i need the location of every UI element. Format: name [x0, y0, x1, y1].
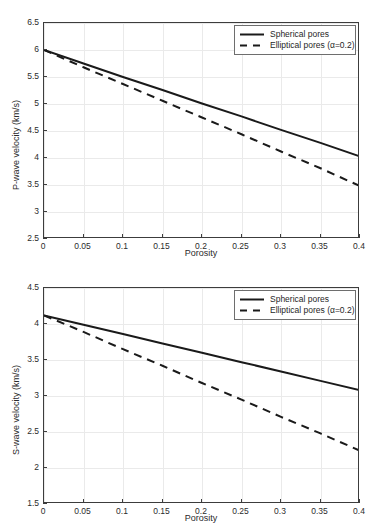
x-tick-mark: [162, 499, 163, 503]
legend-swatch-solid-line: [239, 29, 265, 40]
x-tick-mark: [162, 234, 163, 238]
legend-swatch-dashed-line: [239, 305, 265, 316]
legend-item-elliptical-pores: Elliptical pores (α=0.2): [239, 305, 350, 316]
x-tick-label: 0.15: [153, 242, 170, 251]
legend-item-elliptical-pores: Elliptical pores (α=0.2): [239, 40, 350, 51]
legend-label-spherical-pores: Spherical pores: [270, 29, 329, 40]
y-tick-mark: [43, 467, 47, 468]
x-tick-label: 0: [41, 242, 46, 251]
y-tick-mark: [43, 211, 47, 212]
figure-dual-velocity-plot: 00.050.10.150.20.250.30.350.42.533.544.5…: [0, 0, 381, 529]
x-tick-mark: [122, 499, 123, 503]
series-layer-s-wave: [44, 288, 359, 503]
x-tick-mark: [241, 234, 242, 238]
y-tick-label: 4.5: [18, 126, 39, 135]
chart-panel-s-wave: 00.050.10.150.20.250.30.350.41.522.533.5…: [0, 265, 381, 529]
x-tick-mark: [83, 234, 84, 238]
x-tick-mark: [201, 234, 202, 238]
y-tick-mark: [43, 431, 47, 432]
legend-swatch-solid-line: [239, 294, 265, 305]
y-tick-label: 5: [18, 99, 39, 108]
y-tick-mark: [43, 49, 47, 50]
y-tick-label: 3.5: [18, 355, 39, 364]
x-tick-label: 0.4: [353, 507, 365, 516]
y-tick-label: 5.5: [18, 72, 39, 81]
y-tick-label: 2.5: [18, 427, 39, 436]
y-tick-mark: [43, 395, 47, 396]
legend-label-elliptical-pores: Elliptical pores (α=0.2): [270, 40, 355, 51]
x-tick-label: 0.05: [74, 507, 91, 516]
y-axis-title-p-wave: P-wave velocity (km/s): [12, 100, 21, 190]
x-tick-mark: [241, 499, 242, 503]
x-tick-label: 0.25: [232, 507, 249, 516]
x-tick-mark: [359, 499, 360, 503]
x-tick-label: 0.4: [353, 242, 365, 251]
y-tick-label: 1.5: [18, 499, 39, 508]
series-line-dashed: [44, 50, 359, 186]
y-axis-title-s-wave: S-wave velocity (km/s): [12, 365, 21, 455]
x-tick-label: 0.25: [232, 242, 249, 251]
y-tick-mark: [43, 22, 47, 23]
x-tick-label: 0.1: [116, 242, 128, 251]
legend-label-spherical-pores: Spherical pores: [270, 294, 329, 305]
x-tick-label: 0: [41, 507, 46, 516]
y-tick-label: 2.5: [18, 234, 39, 243]
x-tick-label: 0.1: [116, 507, 128, 516]
x-tick-label: 0.35: [311, 507, 328, 516]
y-tick-label: 2: [18, 463, 39, 472]
x-tick-label: 0.3: [274, 242, 286, 251]
y-tick-label: 3: [18, 391, 39, 400]
x-tick-mark: [320, 499, 321, 503]
x-tick-label: 0.15: [153, 507, 170, 516]
y-tick-mark: [43, 103, 47, 104]
legend-swatch-dashed-line: [239, 40, 265, 51]
legend-label-elliptical-pores: Elliptical pores (α=0.2): [270, 305, 355, 316]
x-axis-title-s-wave: Porosity: [185, 514, 218, 523]
x-tick-mark: [359, 234, 360, 238]
y-tick-mark: [43, 184, 47, 185]
series-line-solid: [44, 315, 359, 390]
legend-s-wave: Spherical pores Elliptical pores (α=0.2): [234, 290, 356, 320]
x-tick-mark: [280, 234, 281, 238]
y-tick-mark: [43, 157, 47, 158]
x-tick-label: 0.35: [311, 242, 328, 251]
y-tick-mark: [43, 359, 47, 360]
x-tick-mark: [122, 234, 123, 238]
y-tick-mark: [43, 130, 47, 131]
legend-item-spherical-pores: Spherical pores: [239, 29, 350, 40]
legend-p-wave: Spherical pores Elliptical pores (α=0.2): [234, 25, 356, 55]
chart-panel-p-wave: 00.050.10.150.20.250.30.350.42.533.544.5…: [0, 0, 381, 265]
x-axis-title-p-wave: Porosity: [185, 249, 218, 258]
y-tick-mark: [43, 238, 47, 239]
x-tick-mark: [320, 234, 321, 238]
series-line-solid: [44, 50, 359, 156]
y-tick-label: 3: [18, 207, 39, 216]
y-tick-mark: [43, 503, 47, 504]
x-tick-mark: [201, 499, 202, 503]
y-tick-label: 4.5: [18, 283, 39, 292]
y-tick-label: 4: [18, 319, 39, 328]
legend-item-spherical-pores: Spherical pores: [239, 294, 350, 305]
y-tick-mark: [43, 76, 47, 77]
x-tick-label: 0.05: [74, 242, 91, 251]
x-tick-mark: [83, 499, 84, 503]
y-tick-label: 6.5: [18, 18, 39, 27]
y-tick-label: 3.5: [18, 180, 39, 189]
x-tick-label: 0.3: [274, 507, 286, 516]
y-tick-label: 4: [18, 153, 39, 162]
y-tick-label: 6: [18, 45, 39, 54]
series-line-dashed: [44, 315, 359, 450]
y-tick-mark: [43, 323, 47, 324]
x-tick-mark: [280, 499, 281, 503]
series-layer-p-wave: [44, 23, 359, 238]
y-tick-mark: [43, 287, 47, 288]
